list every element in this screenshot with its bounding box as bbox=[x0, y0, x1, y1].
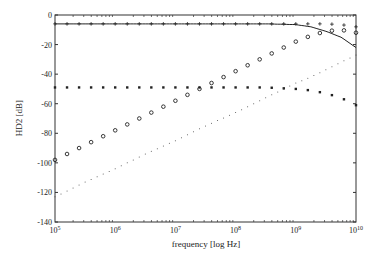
series-circle bbox=[53, 29, 358, 162]
y-tick-label: -80 bbox=[41, 129, 52, 138]
y-tick-label: 0 bbox=[48, 11, 52, 20]
chart: 0-20-40-60-80-100-120-140105106107108109… bbox=[0, 0, 383, 264]
series-dotted bbox=[55, 54, 357, 197]
y-tick-label: -60 bbox=[41, 100, 52, 109]
x-tick-label: 1010 bbox=[349, 225, 363, 235]
y-axis-label: HD2 [dB] bbox=[14, 100, 24, 136]
y-tick-label: -20 bbox=[41, 41, 52, 50]
x-tick-label: 106 bbox=[110, 225, 121, 235]
plot-frame bbox=[55, 15, 356, 222]
x-tick-label: 105 bbox=[50, 225, 61, 235]
y-tick-label: -100 bbox=[37, 159, 52, 168]
series-solid bbox=[55, 24, 356, 48]
y-tick-label: -120 bbox=[37, 188, 52, 197]
x-tick-label: 109 bbox=[290, 225, 301, 235]
x-tick-label: 107 bbox=[170, 225, 181, 235]
x-axis-label: frequency [log Hz] bbox=[172, 239, 240, 249]
x-tick-label: 108 bbox=[230, 225, 241, 235]
y-tick-label: -40 bbox=[41, 70, 52, 79]
series-square bbox=[54, 86, 357, 106]
